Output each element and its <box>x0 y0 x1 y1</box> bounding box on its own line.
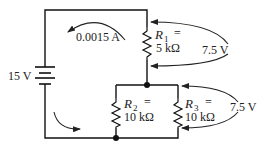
junction-dot-top <box>144 82 150 88</box>
r1-label: R 1 = 5 kΩ <box>154 26 181 55</box>
battery-symbol <box>35 67 55 84</box>
current-label: 0.0015 A <box>76 30 120 44</box>
resistor-r1 <box>143 27 151 60</box>
junction-dot-bottom <box>113 135 119 141</box>
source-voltage-label: 15 V <box>8 69 32 83</box>
current-arrow-bottom <box>54 112 80 129</box>
circuit-diagram: 15 V 0.0015 A R 1 = 5 kΩ R 2 = 10 kΩ R 3… <box>0 0 266 152</box>
svg-text:=: = <box>144 95 151 109</box>
voltage-drop-parallel-label: 7.5 V <box>230 100 257 114</box>
svg-text:=: = <box>205 95 212 109</box>
wire-r3-bottom <box>116 128 178 138</box>
svg-text:=: = <box>174 26 181 40</box>
voltage-drop-r1-label: 7.5 V <box>202 43 229 57</box>
svg-text:R: R <box>184 96 193 111</box>
r3-label: R 3 = 10 kΩ <box>184 95 215 124</box>
svg-text:5 kΩ: 5 kΩ <box>156 41 180 55</box>
svg-text:10 kΩ: 10 kΩ <box>185 110 215 124</box>
svg-text:R: R <box>123 96 132 111</box>
r2-label: R 2 = 10 kΩ <box>123 95 154 124</box>
svg-text:10 kΩ: 10 kΩ <box>124 110 154 124</box>
wire-bottom <box>45 84 116 138</box>
svg-text:R: R <box>154 27 163 42</box>
resistor-r3 <box>174 98 182 128</box>
resistor-r2 <box>112 98 120 128</box>
